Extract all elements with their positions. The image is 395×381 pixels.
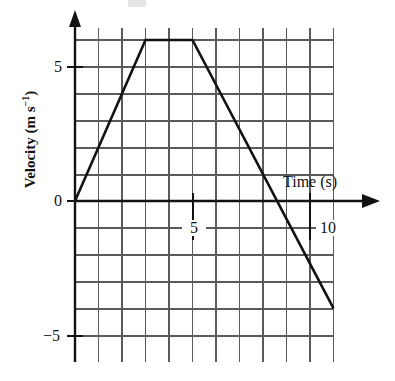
y-axis-arrowhead (69, 10, 81, 27)
y-tick-label-0: 0 (40, 193, 62, 209)
y-axis-title: Velocity (m s−1) (23, 75, 38, 205)
velocity-time-figure: Velocity (m s−1) Time (s) 5 0 −5 5 10 (0, 0, 395, 381)
x-tick-label-10: 10 (316, 220, 340, 236)
y-axis-title-exponent: −1 (20, 96, 31, 107)
grid-lines-vertical (99, 28, 334, 362)
y-axis-title-tail: ) (22, 91, 38, 96)
x-axis-title: Time (s) (283, 174, 337, 190)
y-tick-label-minus5: −5 (38, 328, 60, 344)
y-axis-title-main: Velocity (m s (22, 106, 38, 188)
x-tick-label-5: 5 (182, 220, 206, 236)
x-axis-arrowhead (362, 194, 380, 208)
y-tick-label-5: 5 (40, 59, 62, 75)
